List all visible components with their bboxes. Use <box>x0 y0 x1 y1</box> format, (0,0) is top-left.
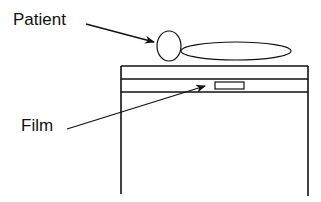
film-label: Film <box>21 117 53 134</box>
patient-body <box>181 42 291 60</box>
diagram-canvas <box>0 0 321 202</box>
patient-label: Patient <box>13 11 66 28</box>
patient-arrow <box>86 24 154 42</box>
patient-head <box>157 31 181 61</box>
film-cassette <box>215 82 244 89</box>
